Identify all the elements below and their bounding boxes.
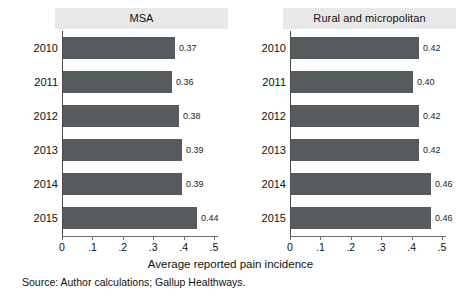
bar-row: 2010 0.42 [291,31,450,65]
x-tick [412,236,413,240]
x-tick [62,236,63,240]
x-tick [214,236,215,240]
bar-row: 2015 0.44 [63,201,222,235]
bar-row: 2011 0.40 [291,65,450,99]
x-tick-label: .2 [346,241,355,253]
bar-value-label: 0.42 [423,105,441,127]
x-tick-label: .4 [407,241,416,253]
bar [63,139,182,161]
bar [63,173,182,195]
x-tick [320,236,321,240]
x-tick [442,236,443,240]
bar-value-label: 0.46 [435,173,453,195]
bar-row: 2013 0.42 [291,133,450,167]
bar-value-label: 0.40 [417,71,435,93]
panel-msa-plot-area: 2010 0.37 2011 0.36 2012 0.38 2013 [62,31,222,236]
bar [63,105,179,127]
x-tick-label: 0 [287,241,293,253]
bar-row: 2011 0.36 [63,65,222,99]
x-tick [92,236,93,240]
x-tick-label: .1 [316,241,325,253]
category-label: 2011 [14,71,58,93]
x-tick [123,236,124,240]
panel-msa: MSA 2010 0.37 2011 0.36 2012 0.38 [6,8,228,256]
x-tick-label: .5 [438,241,447,253]
bar-value-label: 0.46 [435,207,453,229]
category-label: 2013 [242,139,286,161]
bar-row: 2012 0.38 [63,99,222,133]
x-axis-title: Average reported pain incidence [0,258,461,270]
bar [63,37,175,59]
bar-value-label: 0.39 [186,173,204,195]
bar [63,207,197,229]
category-label: 2011 [242,71,286,93]
bar-value-label: 0.39 [186,139,204,161]
bar [291,105,419,127]
panel-msa-bar-rows: 2010 0.37 2011 0.36 2012 0.38 2013 [63,31,222,236]
panel-msa-x-axis [62,236,218,237]
bar [291,37,419,59]
bar-value-label: 0.44 [201,207,219,229]
x-tick-label: .1 [88,241,97,253]
x-tick-label: .3 [377,241,386,253]
bar [291,71,413,93]
x-tick [381,236,382,240]
bar-value-label: 0.36 [176,71,194,93]
x-tick-label: .5 [210,241,219,253]
x-tick-label: 0 [59,241,65,253]
category-label: 2013 [14,139,58,161]
bar [291,207,431,229]
bar [291,173,431,195]
x-tick [153,236,154,240]
panel-msa-title: MSA [55,8,228,29]
bar-value-label: 0.37 [179,37,197,59]
x-tick-label: .4 [179,241,188,253]
category-label: 2010 [14,37,58,59]
category-label: 2014 [14,173,58,195]
bar-value-label: 0.42 [423,37,441,59]
panel-rural-plot-area: 2010 0.42 2011 0.40 2012 0.42 2013 [290,31,450,236]
x-tick [290,236,291,240]
bar-chart-figure: MSA 2010 0.37 2011 0.36 2012 0.38 [0,0,461,302]
bar-row: 2014 0.46 [291,167,450,201]
bar-value-label: 0.38 [183,105,201,127]
x-tick-label: .2 [118,241,127,253]
bar-value-label: 0.42 [423,139,441,161]
bar [63,71,172,93]
x-tick-label: .3 [149,241,158,253]
bar-row: 2015 0.46 [291,201,450,235]
category-label: 2012 [242,105,286,127]
x-tick [351,236,352,240]
bar-row: 2014 0.39 [63,167,222,201]
bar-row: 2010 0.37 [63,31,222,65]
bar-row: 2013 0.39 [63,133,222,167]
source-note: Source: Author calculations; Gallup Heal… [22,276,246,288]
category-label: 2010 [242,37,286,59]
category-label: 2014 [242,173,286,195]
panel-rural-x-axis [290,236,446,237]
panel-rural-bar-rows: 2010 0.42 2011 0.40 2012 0.42 2013 [291,31,450,236]
x-tick [184,236,185,240]
category-label: 2012 [14,105,58,127]
panel-rural: Rural and micropolitan 2010 0.42 2011 0.… [234,8,456,256]
bar-row: 2012 0.42 [291,99,450,133]
panel-rural-title: Rural and micropolitan [283,8,456,29]
category-label: 2015 [14,207,58,229]
bar [291,139,419,161]
category-label: 2015 [242,207,286,229]
